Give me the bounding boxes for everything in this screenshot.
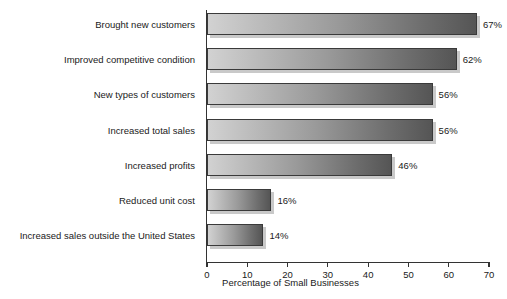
x-axis-title-text: Percentage of Small Businesses	[148, 277, 359, 288]
bar[interactable]	[207, 48, 457, 70]
bar[interactable]	[207, 119, 433, 141]
x-axis-tick	[287, 262, 288, 267]
category-label: Increased total sales	[108, 124, 195, 135]
bar[interactable]	[207, 189, 271, 211]
bar-value-label: 56%	[439, 89, 458, 100]
x-axis-line	[206, 262, 489, 263]
category-label: Improved competitive condition	[64, 54, 195, 65]
bar[interactable]	[207, 224, 263, 246]
x-axis-title: Percentage of Small Businesses	[0, 277, 507, 288]
category-label: Increased profits	[125, 159, 195, 170]
x-axis-tick	[206, 262, 207, 267]
x-axis-tick	[448, 262, 449, 267]
bar[interactable]	[207, 83, 433, 105]
horizontal-bar-chart: Brought new customersImproved competitiv…	[0, 0, 507, 299]
bar-value-label: 56%	[439, 124, 458, 135]
bar-value-label: 67%	[483, 19, 502, 30]
bar-value-label: 46%	[398, 159, 417, 170]
category-label: Reduced unit cost	[119, 195, 195, 206]
x-axis-tick	[488, 262, 489, 267]
bar-value-label: 62%	[463, 54, 482, 65]
bar[interactable]	[207, 13, 477, 35]
x-axis-tick	[327, 262, 328, 267]
category-label-column: Brought new customersImproved competitiv…	[0, 0, 201, 262]
bar-value-label: 16%	[277, 195, 296, 206]
x-axis-tick	[247, 262, 248, 267]
bar-value-label: 14%	[269, 230, 288, 241]
category-label: New types of customers	[94, 89, 195, 100]
plot-area: 010203040506070 67%62%56%56%46%16%14%	[207, 10, 489, 262]
category-label: Increased sales outside the United State…	[20, 230, 195, 241]
x-axis-tick	[408, 262, 409, 267]
category-label: Brought new customers	[95, 19, 195, 30]
bar[interactable]	[207, 154, 392, 176]
x-axis-tick	[368, 262, 369, 267]
